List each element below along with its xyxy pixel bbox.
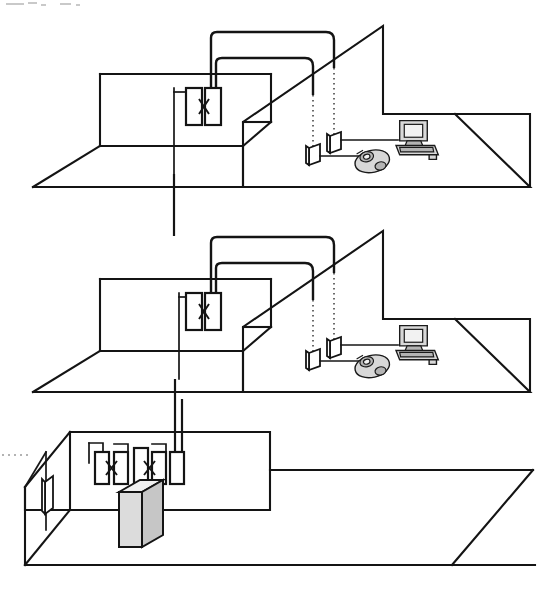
patch-block-icon[interactable]	[170, 452, 184, 484]
floor-top	[33, 26, 530, 187]
wall-jack-icon[interactable]	[327, 132, 341, 153]
patch-block-icon[interactable]	[95, 452, 109, 484]
floor-middle-partition-wall	[243, 231, 455, 392]
ground-patch-assembly	[89, 443, 184, 484]
floor-middle	[33, 231, 530, 392]
horizontal-cable-icon	[216, 263, 313, 300]
wall-jack-icon[interactable]	[327, 337, 341, 358]
riser-diagram-canvas	[0, 0, 547, 589]
patch-block-icon[interactable]	[114, 452, 128, 484]
floor-top-horizontal-cables	[211, 32, 334, 95]
floor-middle-slab	[33, 319, 530, 392]
patch-block-icon[interactable]	[205, 88, 221, 125]
wall-jack-icon[interactable]	[306, 144, 320, 165]
patch-block-icon[interactable]	[205, 293, 221, 330]
patch-block-icon[interactable]	[186, 88, 202, 125]
telephone-icon[interactable]	[353, 147, 392, 176]
floor-middle-patch-assembly	[179, 293, 221, 330]
horizontal-cable-icon	[216, 58, 313, 95]
computer-workstation-icon[interactable]	[396, 326, 438, 365]
computer-workstation-icon[interactable]	[396, 121, 438, 160]
horizontal-cable-icon	[211, 32, 334, 88]
equipment-cabinet-icon[interactable]	[119, 480, 163, 547]
scan-artifacts	[6, 2, 80, 6]
horizontal-cable-icon	[211, 237, 334, 293]
patch-block-icon[interactable]	[134, 448, 148, 484]
wall-jack-icon[interactable]	[306, 349, 320, 370]
patch-block-icon[interactable]	[186, 293, 202, 330]
floor-top-slab	[33, 114, 530, 187]
floor-ground	[2, 432, 535, 565]
floor-top-partition-wall	[243, 26, 455, 187]
floor-top-patch-assembly	[174, 88, 221, 125]
floor-middle-horizontal-cables	[211, 237, 334, 300]
wall-jack-icon[interactable]	[42, 476, 53, 514]
telephone-icon[interactable]	[353, 352, 392, 381]
riser-diagram-svg	[0, 0, 547, 589]
